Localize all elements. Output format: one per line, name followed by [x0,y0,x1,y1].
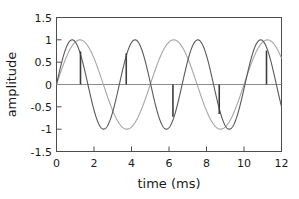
y-tick-label: 1.5 [35,12,53,25]
amplitude-vs-time-chart: 1.5 1 0.5 0 -0.5 -1 -1.5 0 2 4 6 8 10 12… [0,0,299,199]
y-tick-label: 0.5 [35,56,53,69]
x-tick-label: 8 [203,157,210,170]
x-tick-label: 0 [53,157,60,170]
y-tick-label: -1 [41,123,52,136]
y-tick-label: -0.5 [31,101,52,114]
y-tick-label: 0 [45,79,52,92]
y-tick-label: -1.5 [31,146,52,159]
x-tick-label: 4 [128,157,135,170]
x-axis-title: time (ms) [137,176,200,191]
x-tick-label: 6 [166,157,173,170]
figure-background [0,0,299,199]
x-tick-label: 12 [275,157,289,170]
y-tick-label: 1 [45,34,52,47]
y-axis-title: amplitude [4,52,19,118]
x-tick-label: 10 [237,157,251,170]
x-tick-label: 2 [91,157,98,170]
